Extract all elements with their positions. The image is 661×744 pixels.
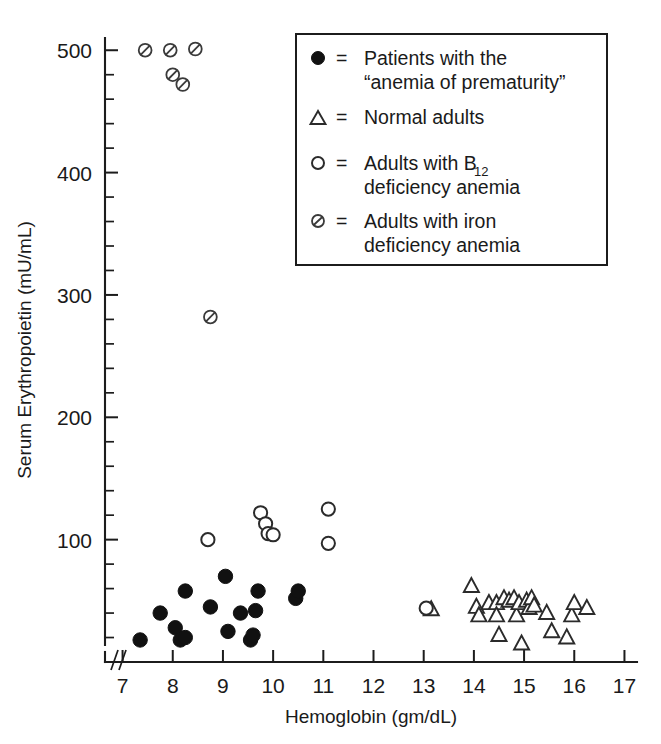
legend-label-4-line1: Adults with iron <box>364 210 496 232</box>
data-point-open-triangle <box>514 635 529 649</box>
data-point-filled-circle <box>246 628 260 642</box>
data-point-open-circle <box>322 537 335 550</box>
legend-equals-2: = <box>336 106 347 128</box>
legend-label-1-line2: “anemia of prematurity” <box>364 71 566 93</box>
scatter-plot-figure: 100200300400500 7891011121314151617 Seru… <box>0 0 661 744</box>
legend-equals-4: = <box>336 210 347 232</box>
x-tick-label: 12 <box>362 674 385 697</box>
data-point-filled-circle <box>178 630 192 644</box>
data-point-filled-circle <box>233 606 247 620</box>
data-point-open-circle <box>420 602 433 615</box>
legend: = Patients with the “anemia of prematuri… <box>296 34 607 265</box>
x-tick-label: 9 <box>217 674 229 697</box>
x-tick-label: 13 <box>412 674 435 697</box>
y-tick-label: 500 <box>57 39 92 62</box>
legend-equals-1: = <box>336 47 347 69</box>
x-tick-label: 17 <box>613 674 636 697</box>
y-tick-label: 300 <box>57 284 92 307</box>
open-circle-icon <box>312 157 324 169</box>
y-tick-label: 200 <box>57 406 92 429</box>
legend-label-1-line1: Patients with the <box>364 47 507 69</box>
series-filled-circle <box>133 569 305 647</box>
x-tick-label: 7 <box>117 674 129 697</box>
legend-label-3-line1: Adults with B <box>364 152 477 174</box>
axis-break-marks <box>111 650 126 670</box>
legend-label-2-line1: Normal adults <box>364 106 485 128</box>
data-point-filled-circle <box>153 606 167 620</box>
data-point-open-triangle <box>464 578 479 592</box>
data-point-open-circle <box>322 502 335 515</box>
x-tick-label: 15 <box>512 674 535 697</box>
legend-equals-3: = <box>336 152 347 174</box>
data-point-filled-circle <box>133 633 147 647</box>
data-point-open-triangle <box>559 629 574 643</box>
x-axis-tick-labels: 7891011121314151617 <box>117 674 636 697</box>
plot-canvas: 100200300400500 7891011121314151617 Seru… <box>0 0 661 744</box>
data-point-filled-circle <box>221 624 235 638</box>
data-point-open-triangle <box>544 623 559 637</box>
data-point-open-circle <box>267 528 280 541</box>
legend-label-3-line2: deficiency anemia <box>364 176 520 198</box>
data-point-filled-circle <box>291 584 305 598</box>
legend-entry-normal-adults: = Normal adults <box>311 106 485 128</box>
data-point-open-triangle <box>567 595 582 609</box>
data-point-filled-circle <box>218 569 232 583</box>
y-axis-title: Serum Erythropoietin (mU/mL) <box>14 221 35 479</box>
x-tick-label: 10 <box>261 674 284 697</box>
data-point-filled-circle <box>178 584 192 598</box>
series-slashed-circle <box>139 43 217 324</box>
x-axis-title: Hemoglobin (gm/dL) <box>285 706 457 727</box>
data-point-open-circle <box>201 533 214 546</box>
x-axis-ticks <box>123 650 625 662</box>
data-point-filled-circle <box>203 600 217 614</box>
data-point-filled-circle <box>251 584 265 598</box>
data-point-open-triangle <box>491 627 506 641</box>
y-axis-tick-labels: 100200300400500 <box>57 39 92 551</box>
legend-label-4-line2: deficiency anemia <box>364 234 520 256</box>
y-tick-label: 400 <box>57 162 92 185</box>
y-tick-label: 100 <box>57 529 92 552</box>
y-axis-ticks <box>105 50 118 637</box>
x-tick-label: 14 <box>462 674 486 697</box>
x-tick-label: 8 <box>167 674 179 697</box>
data-point-filled-circle <box>248 603 262 617</box>
x-tick-label: 16 <box>563 674 586 697</box>
series-open-circle <box>201 502 433 614</box>
x-tick-label: 11 <box>312 674 334 697</box>
filled-circle-icon <box>312 52 325 65</box>
series-open-triangle <box>424 578 595 650</box>
